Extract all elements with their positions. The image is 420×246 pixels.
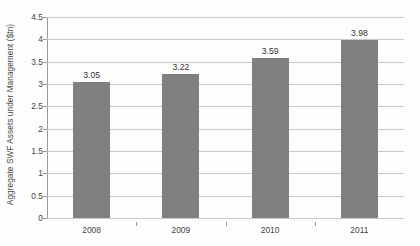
- x-tick-label: 2008: [82, 225, 101, 235]
- bar[interactable]: [341, 40, 378, 218]
- bar-value-label: 3.05: [83, 70, 100, 80]
- y-tick-label: 4: [3, 34, 43, 44]
- bar-value-label: 3.59: [262, 46, 279, 56]
- bar[interactable]: [73, 82, 110, 218]
- x-tick-label: 2009: [172, 225, 191, 235]
- y-tick-label: 3.5: [3, 57, 43, 67]
- y-tick-label: 2: [3, 124, 43, 134]
- x-tick-mark: [315, 222, 316, 226]
- x-tick-label: 2011: [350, 225, 368, 235]
- x-tick-mark: [226, 222, 227, 226]
- y-tick-label: 2.5: [3, 101, 43, 111]
- bar[interactable]: [162, 74, 199, 218]
- y-tick-label: 0.5: [3, 191, 43, 201]
- bar-value-label: 3.98: [351, 28, 368, 38]
- y-tick-label: 0: [3, 213, 43, 223]
- y-axis-tick-labels: 00.511.522.533.544.5: [0, 0, 43, 246]
- bar[interactable]: [252, 58, 289, 218]
- plot-area: 3.053.223.593.98: [47, 17, 404, 218]
- bar-chart: Aggregate SWF Assets under Management ($…: [0, 0, 420, 246]
- bar-group[interactable]: 3.59: [252, 17, 289, 218]
- x-tick-mark: [136, 222, 137, 226]
- x-axis-tick-labels: 2008200920102011: [47, 222, 404, 242]
- gridline: [47, 218, 404, 219]
- bar-group[interactable]: 3.22: [162, 17, 199, 218]
- x-tick-label: 2010: [261, 225, 280, 235]
- y-tick-label: 1.5: [3, 146, 43, 156]
- bar-group[interactable]: 3.05: [73, 17, 110, 218]
- bar-group[interactable]: 3.98: [341, 17, 378, 218]
- y-tick-label: 4.5: [3, 12, 43, 22]
- y-tick-label: 1: [3, 168, 43, 178]
- bar-value-label: 3.22: [173, 62, 190, 72]
- y-tick-label: 3: [3, 79, 43, 89]
